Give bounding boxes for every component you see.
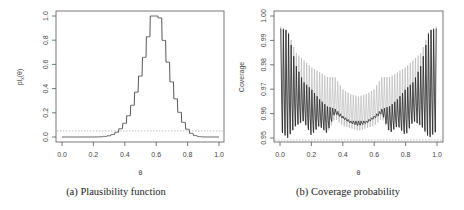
x-tick-label: 1.0	[214, 151, 224, 158]
x-tick-label: 0.4	[338, 151, 348, 158]
coverage-curve-grey	[281, 26, 436, 135]
y-tick-label: 0.95	[260, 131, 267, 145]
coverage-chart: 0.00.20.40.60.81.00.950.960.970.980.991.…	[232, 0, 464, 185]
x-axis-label: θ	[139, 169, 143, 176]
y-tick-label: 0.98	[260, 58, 267, 72]
x-tick-label: 0.6	[151, 151, 161, 158]
y-axis-label: plx(θ)	[16, 69, 25, 86]
y-tick-label: 0.97	[260, 82, 267, 96]
plausibility-chart: 0.00.20.40.60.81.00.00.20.40.60.81.0θplx…	[0, 0, 232, 185]
plausibility-panel: 0.00.20.40.60.81.00.00.20.40.60.81.0θplx…	[0, 0, 232, 210]
caption-coverage: (b) Coverage probability	[232, 186, 464, 197]
x-tick-label: 0.0	[275, 151, 285, 158]
x-tick-label: 0.6	[369, 151, 379, 158]
coverage-curve-black	[281, 28, 436, 137]
x-axis-label: θ	[357, 169, 361, 176]
y-tick-label: 0.96	[260, 107, 267, 121]
y-tick-label: 1.00	[260, 9, 267, 23]
coverage-panel: 0.00.20.40.60.81.00.950.960.970.980.991.…	[232, 0, 464, 210]
plausibility-curve	[62, 16, 219, 137]
caption-plausibility: (a) Plausibility function	[0, 186, 232, 197]
y-tick-label: 0.4	[42, 84, 49, 94]
y-tick-label: 0.2	[42, 108, 49, 118]
x-tick-label: 0.0	[57, 151, 67, 158]
x-tick-label: 1.0	[432, 151, 442, 158]
y-tick-label: 0.6	[42, 59, 49, 69]
y-axis-label: Coverage	[238, 62, 246, 92]
y-tick-label: 0.8	[42, 35, 49, 45]
y-tick-label: 1.0	[42, 11, 49, 21]
x-tick-label: 0.2	[89, 151, 99, 158]
y-tick-label: 0.99	[260, 33, 267, 47]
x-tick-label: 0.2	[307, 151, 317, 158]
x-tick-label: 0.8	[183, 151, 193, 158]
y-tick-label: 0.0	[42, 132, 49, 142]
x-tick-label: 0.4	[120, 151, 130, 158]
x-tick-label: 0.8	[401, 151, 411, 158]
